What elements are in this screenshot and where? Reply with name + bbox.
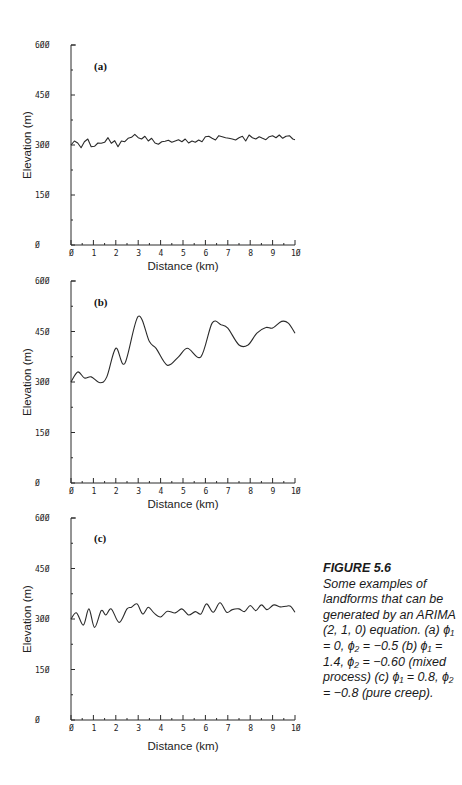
x-tick-label: 5 <box>181 724 186 733</box>
y-tick-label: 15Ø <box>35 665 50 675</box>
x-tick-label: 6 <box>203 487 208 496</box>
x-tick-label: 7 <box>226 249 231 258</box>
x-tick-label: 1 <box>91 249 96 258</box>
figure-caption: FIGURE 5.6 Some examples of landforms th… <box>323 561 461 701</box>
x-tick-label: 8 <box>248 487 253 496</box>
chart-panel-a: Ø15Ø3ØØ45Ø6ØØØ1234567891ØDistance (km)El… <box>21 40 301 272</box>
x-axis-title: Distance (km) <box>148 740 219 752</box>
elevation-profile-line <box>71 603 295 628</box>
x-tick-label: 5 <box>181 249 186 258</box>
x-tick-label: 6 <box>203 724 208 733</box>
elevation-profile-line <box>71 134 295 147</box>
y-tick-label: Ø <box>35 715 40 725</box>
x-tick-label: 7 <box>226 487 231 496</box>
y-tick-label: Ø <box>35 478 40 488</box>
x-tick-label: 9 <box>271 487 276 496</box>
y-tick-label: 3ØØ <box>35 614 50 624</box>
y-axis-title: Elevation (m) <box>21 111 33 179</box>
x-tick-label: 3 <box>136 724 141 733</box>
panel-label: (a) <box>94 60 107 73</box>
panel-label: (b) <box>94 296 108 309</box>
y-tick-label: 45Ø <box>35 327 50 337</box>
x-tick-label: 4 <box>159 724 164 733</box>
panel-label: (c) <box>94 532 107 545</box>
y-tick-label: 45Ø <box>35 564 50 574</box>
y-tick-label: 3ØØ <box>35 377 50 387</box>
x-tick-label: 1 <box>91 724 96 733</box>
x-tick-label: 8 <box>248 724 253 733</box>
figure-caption-text: Some examples of landforms that can be g… <box>323 577 461 702</box>
x-tick-label: 1Ø <box>291 248 301 258</box>
x-axis-title: Distance (km) <box>148 260 219 272</box>
x-tick-label: 4 <box>159 487 164 496</box>
y-tick-label: 3ØØ <box>35 140 50 150</box>
y-axis-title: Elevation (m) <box>21 348 33 416</box>
y-tick-label: 6ØØ <box>35 40 50 50</box>
x-tick-label: 4 <box>159 249 164 258</box>
x-tick-label: 2 <box>114 249 119 258</box>
y-tick-label: 6ØØ <box>35 513 50 523</box>
x-tick-label: 2 <box>114 487 119 496</box>
x-tick-label: 5 <box>181 487 186 496</box>
figure-number: FIGURE 5.6 <box>323 561 461 577</box>
x-tick-label: 1Ø <box>291 486 301 496</box>
x-tick-label: Ø <box>69 248 74 258</box>
x-axis-title: Distance (km) <box>148 498 219 510</box>
x-tick-label: 6 <box>203 249 208 258</box>
chart-panel-b: Ø15Ø3ØØ45Ø6ØØØ1234567891ØDistance (km)El… <box>21 276 301 510</box>
y-tick-label: 45Ø <box>35 90 50 100</box>
y-axis-title: Elevation (m) <box>21 585 33 653</box>
chart-panel-c: Ø15Ø3ØØ45Ø6ØØØ1234567891ØDistance (km)El… <box>21 513 301 752</box>
x-tick-label: 9 <box>271 249 276 258</box>
x-tick-label: 1Ø <box>291 723 301 733</box>
y-tick-label: 15Ø <box>35 428 50 438</box>
x-tick-label: Ø <box>69 486 74 496</box>
x-tick-label: 2 <box>114 724 119 733</box>
x-tick-label: Ø <box>69 723 74 733</box>
x-tick-label: 9 <box>271 724 276 733</box>
x-tick-label: 8 <box>248 249 253 258</box>
y-tick-label: 15Ø <box>35 190 50 200</box>
x-tick-label: 1 <box>91 487 96 496</box>
x-tick-label: 7 <box>226 724 231 733</box>
x-tick-label: 3 <box>136 249 141 258</box>
y-tick-label: 6ØØ <box>35 276 50 286</box>
elevation-profile-line <box>71 316 295 383</box>
x-tick-label: 3 <box>136 487 141 496</box>
y-tick-label: Ø <box>35 240 40 250</box>
